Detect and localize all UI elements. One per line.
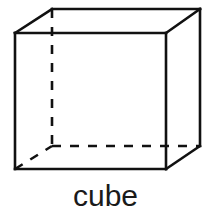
cube-figure: cube <box>0 0 211 221</box>
shape-label: cube <box>0 180 211 212</box>
cube-front-face <box>15 33 166 169</box>
